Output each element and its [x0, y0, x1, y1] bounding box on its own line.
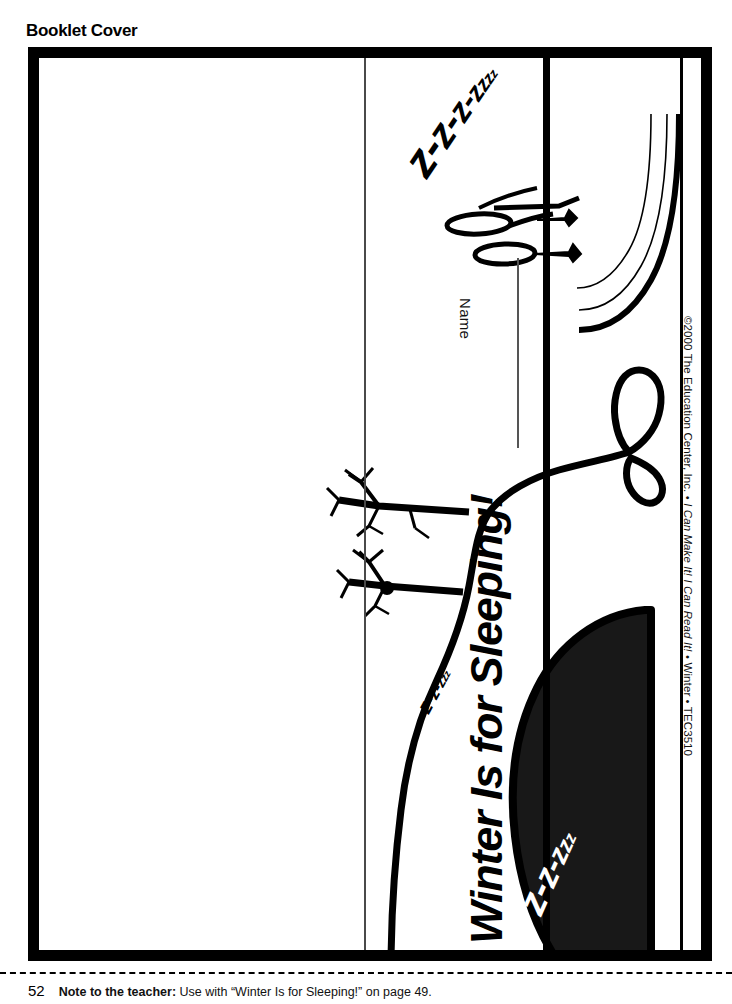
hill-contour-outer [579, 114, 679, 330]
copyright-line: ©2000 The Education Center, Inc. • I Can… [682, 316, 694, 756]
hill-contour-inner-1 [579, 114, 667, 310]
page-title: Booklet Cover [26, 21, 137, 41]
name-label: Name [457, 298, 474, 339]
teacher-note: Note to the teacher: Use with “Winter Is… [59, 985, 432, 999]
booklet-title: Winter Is for Sleeping! [461, 494, 513, 944]
blank-panel [39, 58, 364, 950]
frame-inner: Name z-z-z-zzzz z-z-zzz z-z-zzz Winter I… [39, 58, 701, 950]
name-panel: Name [366, 58, 543, 950]
hill-contour-inner-2 [577, 114, 651, 288]
bear-head [614, 370, 661, 452]
bear-snout [627, 458, 663, 503]
booklet-cover-frame: Name z-z-z-zzzz z-z-zzz z-z-zzz Winter I… [28, 47, 712, 961]
page-number: 52 [28, 982, 45, 999]
teacher-note-label: Note to the teacher: [59, 985, 176, 999]
cut-dashed-line [0, 972, 732, 974]
copyright-product: • Winter • TEC3510 [682, 652, 694, 756]
name-write-line[interactable] [517, 258, 519, 448]
copyright-series: I Can Make It! I Can Read It! [682, 503, 694, 652]
teacher-note-text: Use with “Winter Is for Sleeping!” on pa… [176, 985, 432, 999]
copyright-year: ©2000 [682, 316, 694, 354]
copyright-publisher: The Education Center, Inc. • [682, 354, 694, 503]
fold-line-center [543, 58, 550, 950]
page-footer: 52 Note to the teacher: Use with “Winter… [28, 982, 432, 999]
